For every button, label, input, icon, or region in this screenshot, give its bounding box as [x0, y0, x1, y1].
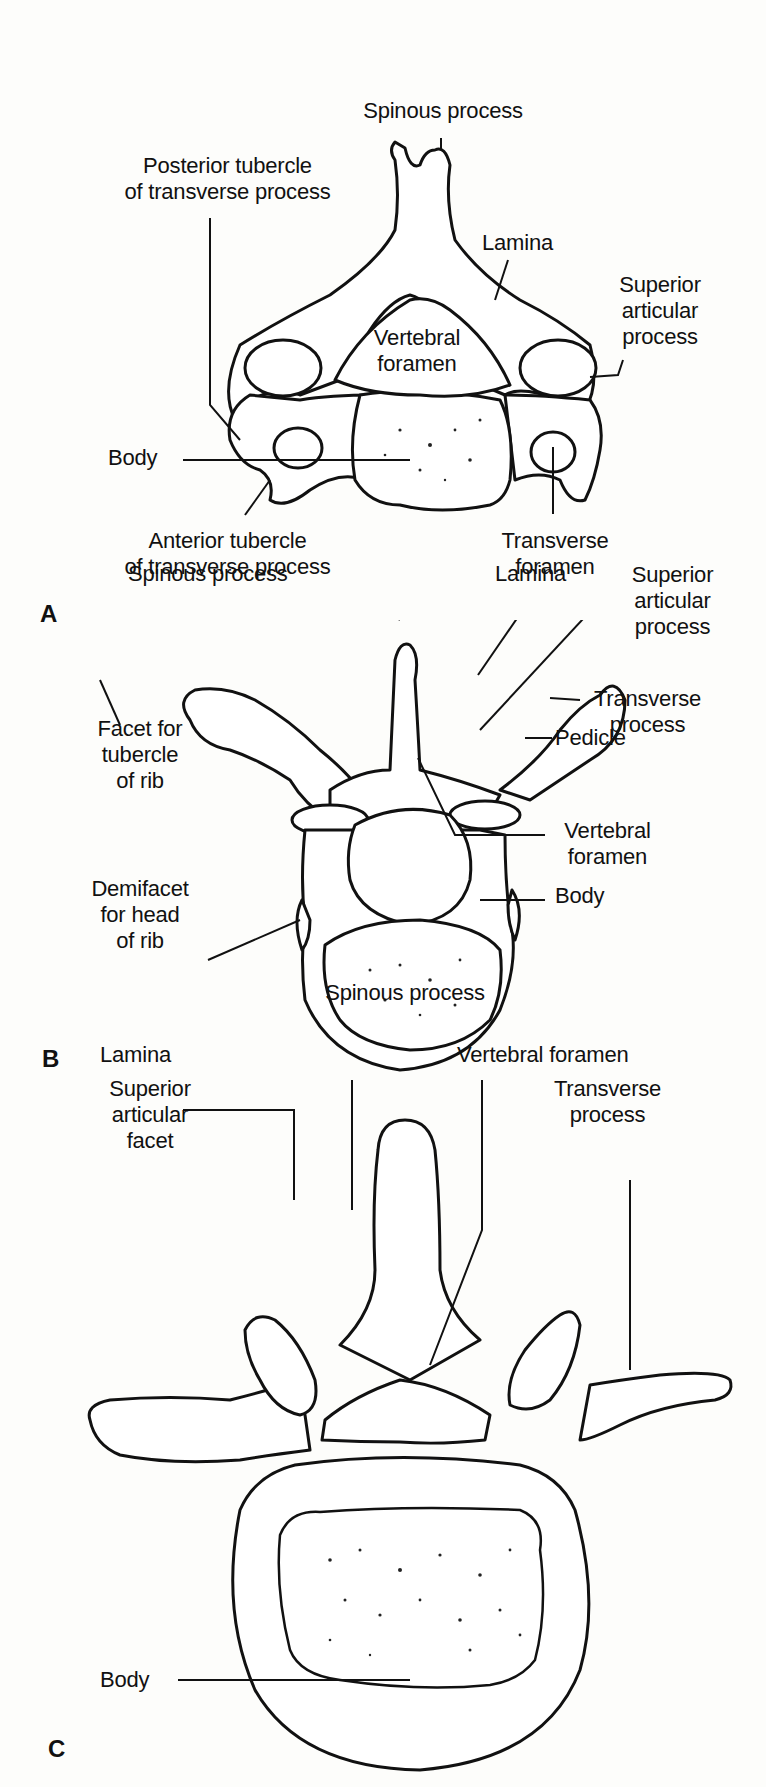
label-vertebral-foramen: Vertebral foramen: [457, 1042, 717, 1068]
label-lamina: Lamina: [495, 561, 615, 587]
label-facet-tubercle-rib: Facet for tubercle of rib: [80, 716, 200, 794]
label-vertebral-foramen: Vertebral foramen: [352, 325, 482, 377]
label-lamina: Lamina: [482, 230, 602, 256]
label-body: Body: [100, 1667, 180, 1693]
label-posterior-tubercle: Posterior tubercle of transverse process: [95, 153, 360, 205]
label-spinous-process: Spinous process: [128, 561, 358, 587]
panel-letter-c: C: [48, 1735, 65, 1763]
panel-b-thoracic-vertebra: Spinous process Lamina Superior articula…: [0, 620, 766, 1080]
panel-a-cervical-vertebra: Spinous process Posterior tubercle of tr…: [0, 0, 766, 620]
label-demifacet-head-rib: Demifacet for head of rib: [80, 876, 200, 954]
label-transverse-process: Transverse process: [535, 1076, 680, 1128]
label-spinous-process: Spinous process: [318, 98, 568, 124]
label-spinous-process: Spinous process: [270, 980, 540, 1006]
label-lamina: Lamina: [100, 1042, 220, 1068]
label-body: Body: [108, 445, 188, 471]
label-superior-articular-facet: Superior articular facet: [90, 1076, 210, 1154]
label-superior-articular-process: Superior articular process: [615, 562, 730, 640]
label-superior-articular-process: Superior articular process: [600, 272, 720, 350]
panel-letter-b: B: [42, 1045, 59, 1073]
label-pedicle: Pedicle: [555, 725, 675, 751]
panel-c-lumbar-vertebra: Spinous process Lamina Vertebral foramen…: [0, 1080, 766, 1787]
label-body: Body: [555, 883, 635, 909]
label-vertebral-foramen: Vertebral foramen: [550, 818, 665, 870]
